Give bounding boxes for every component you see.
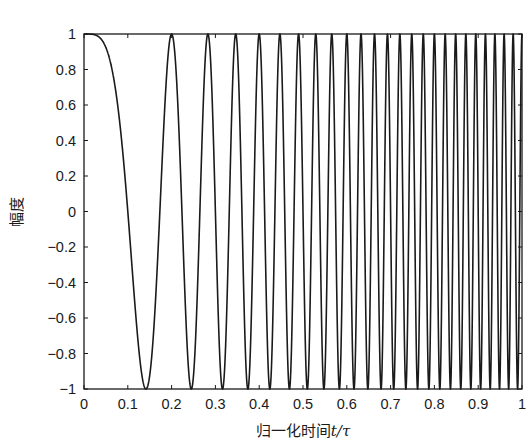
chirp-line-chart: 00.10.20.30.40.50.60.70.80.91 10.80.60.4… (0, 0, 531, 445)
x-tick-label: 0.8 (424, 396, 444, 412)
y-tick-label: −0.4 (47, 275, 76, 291)
x-tick-label: 0.6 (337, 396, 357, 412)
y-axis-label: 幅度 (8, 197, 26, 227)
x-axis-label-variable: t/τ (331, 422, 351, 440)
y-tick-label: −0.2 (47, 239, 76, 255)
x-tick-label: 0.7 (381, 396, 401, 412)
y-tick-label: 0.4 (56, 133, 76, 149)
y-tick-label: −0.6 (47, 310, 76, 326)
y-tick-label: −1 (59, 381, 76, 397)
x-tick-label: 0.3 (205, 396, 225, 412)
x-tick-label: 0.2 (162, 396, 182, 412)
y-tick-label: 0.8 (56, 62, 76, 78)
x-tick-label: 0.4 (249, 396, 269, 412)
y-tick-label: 1 (68, 26, 76, 42)
x-axis-label: 归一化时间t/τ (256, 422, 351, 440)
x-tick-labels: 00.10.20.30.40.50.60.70.80.91 (80, 396, 526, 412)
y-tick-label: 0 (68, 204, 76, 220)
y-tick-label: 0.2 (56, 168, 76, 184)
x-axis-label-text: 归一化时间 (256, 422, 331, 440)
x-tick-label: 0 (80, 396, 88, 412)
chirp-waveform-line (84, 34, 522, 389)
y-tick-label: 0.6 (56, 97, 76, 113)
x-tick-label: 0.5 (293, 396, 313, 412)
y-tick-label: −0.8 (47, 346, 76, 362)
x-tick-label: 1 (518, 396, 526, 412)
x-tick-label: 0.1 (118, 396, 138, 412)
y-tick-labels: 10.80.60.40.20−0.2−0.4−0.6−0.8−1 (47, 26, 76, 397)
x-tick-label: 0.9 (468, 396, 488, 412)
